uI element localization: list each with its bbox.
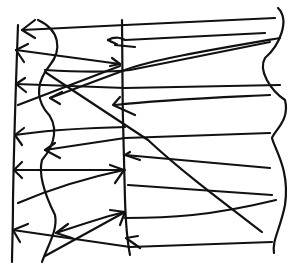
arrowhead-11 (45, 143, 60, 158)
arrowhead-7 (50, 92, 62, 104)
arrowhead-8 (113, 97, 135, 115)
arrowhead-13b (110, 165, 124, 183)
line-10 (15, 127, 125, 135)
arrowhead-19 (13, 224, 28, 242)
line-14 (18, 170, 124, 203)
line-3 (16, 50, 120, 64)
line-15 (128, 185, 272, 195)
arrowhead-10 (15, 128, 24, 145)
left-axis-line (12, 25, 18, 262)
line-5 (16, 84, 280, 88)
left-wave-line (38, 20, 57, 262)
line-12 (125, 155, 270, 168)
line-8 (115, 95, 270, 105)
right-wave-line (263, 8, 286, 253)
sketch-canvas (0, 0, 294, 270)
line-2 (108, 33, 265, 40)
line-16 (125, 200, 276, 218)
line-1 (22, 18, 275, 30)
